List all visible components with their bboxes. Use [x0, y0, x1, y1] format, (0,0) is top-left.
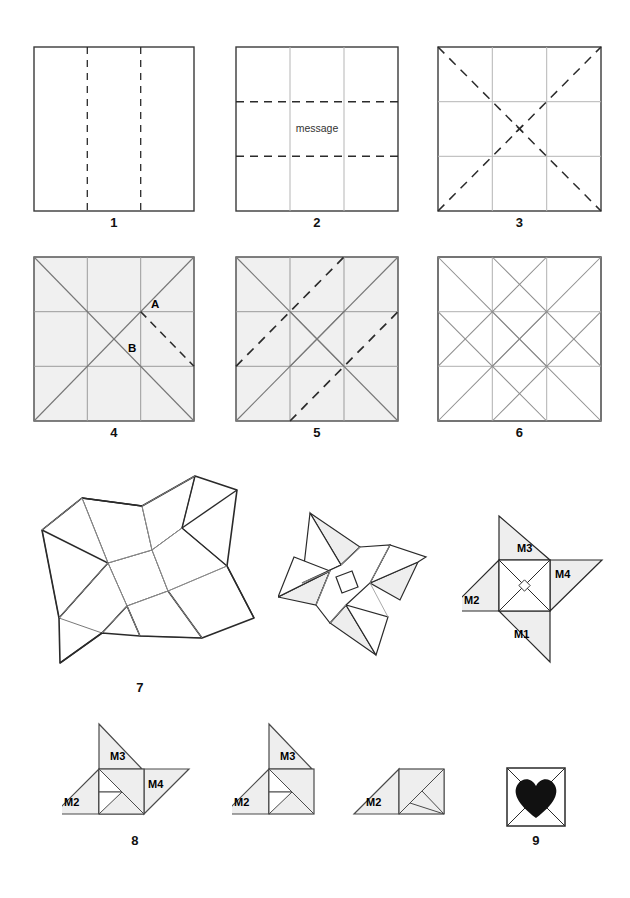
flap-label-m2: M2 — [64, 796, 79, 808]
flap-label-m2: M2 — [234, 796, 249, 808]
step-1-caption: 1 — [33, 215, 195, 230]
step-9-caption: 9 — [505, 833, 567, 848]
step-8b-svg: M3 M2 — [232, 722, 352, 832]
step-2-figure: message — [235, 46, 399, 212]
step-2-svg: message — [235, 46, 399, 212]
step-8-stage-a-figure: M3 M2 M4 — [62, 722, 212, 832]
flap-m2: M2 — [62, 769, 99, 814]
origami-instruction-sheet: 1 message 2 3 A B 4 — [0, 0, 630, 898]
flap-label-m3: M3 — [280, 750, 295, 762]
point-label-a: A — [151, 298, 159, 310]
flap-m3: M3 — [499, 516, 550, 560]
flap-label-m3: M3 — [110, 750, 125, 762]
flap-label-m4: M4 — [148, 778, 164, 790]
step-2-caption: 2 — [235, 215, 399, 230]
step-7-caption: 7 — [100, 680, 180, 695]
center-square — [269, 769, 314, 814]
step-7c-svg: M3 M4 M2 M1 — [462, 512, 617, 672]
step-8a-svg: M3 M2 M4 — [62, 722, 212, 832]
step-3-caption: 3 — [437, 215, 602, 230]
flap-label-m3: M3 — [517, 542, 532, 554]
center-square — [399, 769, 444, 814]
flap-m2: M2 — [462, 560, 499, 611]
flap-m4: M4 — [144, 769, 189, 814]
point-label-b: B — [128, 342, 136, 354]
step-5-caption: 5 — [235, 425, 399, 440]
step-7-svg — [22, 458, 262, 678]
step-7c-figure: M3 M4 M2 M1 — [462, 512, 617, 672]
step-8-caption: 8 — [105, 833, 165, 848]
step-5-svg — [235, 256, 399, 422]
flap-m2: M2 — [232, 769, 269, 814]
step-7b-figure — [278, 505, 448, 665]
step-8c-svg: M2 — [352, 767, 472, 827]
flap-label-m2: M2 — [366, 796, 381, 808]
inner-facets — [42, 476, 227, 638]
step-3-svg — [437, 46, 602, 212]
center-square — [99, 769, 144, 814]
step-4-figure: A B — [33, 256, 195, 422]
flap-m2: M2 — [354, 769, 399, 814]
step-9-svg — [505, 766, 567, 828]
step-6-svg — [437, 256, 602, 422]
flap-label-m2: M2 — [464, 594, 479, 606]
step-4-svg: A B — [33, 256, 195, 422]
message-label: message — [296, 122, 339, 134]
paper-outline — [34, 47, 194, 211]
step-8-stage-c-figure: M2 — [352, 767, 472, 827]
flap-m3: M3 — [269, 724, 312, 769]
step-8-stage-b-figure: M3 M2 — [232, 722, 352, 832]
step-7-figure — [22, 458, 262, 678]
step-4-caption: 4 — [33, 425, 195, 440]
step-6-figure — [437, 256, 602, 422]
flap-m4: M4 — [550, 560, 602, 611]
center-square — [499, 560, 550, 611]
flap-m3: M3 — [99, 724, 142, 769]
flap-m1: M1 — [499, 611, 550, 662]
step-5-figure — [235, 256, 399, 422]
step-9-figure — [505, 766, 567, 828]
step-1-svg — [33, 46, 195, 212]
step-6-caption: 6 — [437, 425, 602, 440]
step-1-figure — [33, 46, 195, 212]
step-3-figure — [437, 46, 602, 212]
flap-label-m1: M1 — [514, 628, 529, 640]
step-7b-svg — [278, 505, 448, 665]
flap-label-m4: M4 — [555, 568, 571, 580]
